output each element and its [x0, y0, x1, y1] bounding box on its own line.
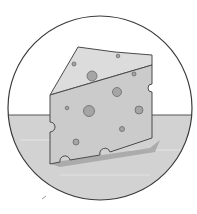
- cheese-wedge-drawing: [0, 0, 197, 214]
- cheese-illustration: [0, 0, 197, 214]
- stray-mark-icon: [42, 196, 46, 199]
